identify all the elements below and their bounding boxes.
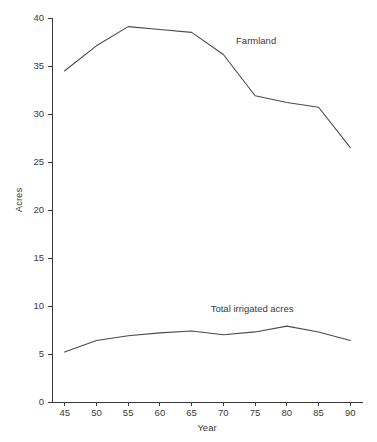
x-tick-label: 50 [91,407,102,418]
y-tick-label: 30 [33,108,44,119]
x-tick-label: 45 [59,407,70,418]
y-tick-label: 10 [33,300,44,311]
x-tick-label: 85 [313,407,324,418]
series-label-group: FarmlandTotal irrigated acres [211,35,294,314]
y-tick-label: 35 [33,60,44,71]
x-tick-label: 75 [250,407,261,418]
x-tick-label: 55 [123,407,134,418]
x-axis: 45505560657075808590 [52,402,363,418]
x-tick-label: 60 [155,407,166,418]
y-axis-title: Acres [13,188,24,213]
series-line-total-irrigated-acres [65,326,351,352]
chart-container: 0510152025303540 45505560657075808590 Fa… [0,0,377,442]
line-chart: 0510152025303540 45505560657075808590 Fa… [0,0,377,442]
y-tick-label: 20 [33,204,44,215]
y-tick-label: 40 [33,12,44,23]
y-axis-ticks: 0510152025303540 [33,12,52,407]
x-axis-title: Year [197,422,216,433]
series-group [65,27,351,352]
series-label-total-irrigated-acres: Total irrigated acres [211,303,294,314]
x-axis-ticks: 45505560657075808590 [59,402,355,418]
x-tick-label: 90 [345,407,356,418]
y-axis: 0510152025303540 [33,12,52,407]
x-tick-label: 80 [282,407,293,418]
y-tick-label: 15 [33,252,44,263]
series-line-farmland [65,27,351,148]
y-tick-label: 5 [39,348,44,359]
x-tick-label: 70 [218,407,229,418]
series-label-farmland: Farmland [236,35,276,46]
y-tick-label: 0 [39,396,44,407]
x-tick-label: 65 [186,407,197,418]
y-tick-label: 25 [33,156,44,167]
